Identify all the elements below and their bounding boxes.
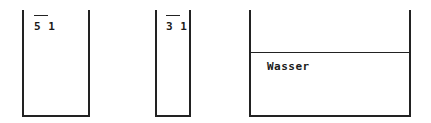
vessel-3-liter: 3 1 [155,10,191,117]
vessel-5-liter-label: 5 1 [34,20,55,33]
vessel-5-liter: 5 1 [22,10,90,117]
label-overline [166,15,180,16]
water-basin: Wasser [249,10,411,117]
water-surface-line [251,52,409,53]
vessel-3-liter-label: 3 1 [166,20,187,33]
label-overline [34,15,48,16]
water-label: Wasser [267,60,310,73]
